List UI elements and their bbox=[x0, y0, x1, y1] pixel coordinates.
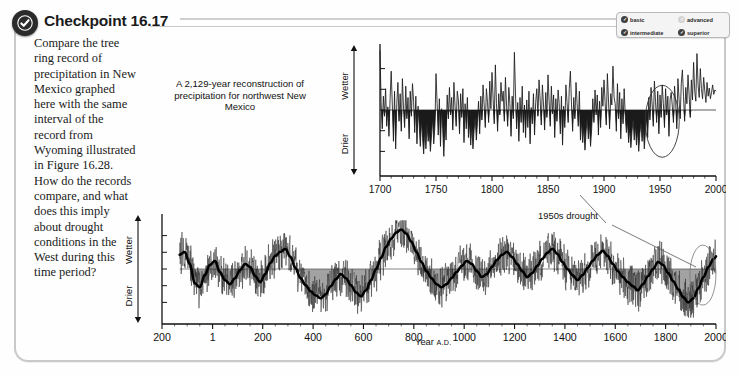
legend-item-superior[interactable]: ✓ superior bbox=[674, 29, 731, 36]
check-dot-icon: ✓ bbox=[678, 16, 685, 23]
svg-text:1600: 1600 bbox=[603, 331, 627, 343]
figure-caption: A 2,129-year reconstruction of precipita… bbox=[172, 78, 308, 113]
svg-text:1700: 1700 bbox=[369, 184, 392, 195]
svg-text:200: 200 bbox=[153, 331, 171, 343]
svg-text:1800: 1800 bbox=[481, 184, 504, 195]
svg-text:1400: 1400 bbox=[553, 331, 577, 343]
svg-text:2000: 2000 bbox=[704, 331, 726, 343]
svg-text:1: 1 bbox=[210, 331, 216, 343]
svg-text:2000: 2000 bbox=[705, 184, 726, 195]
check-dot-icon: ✓ bbox=[621, 16, 628, 23]
svg-text:1850: 1850 bbox=[537, 184, 560, 195]
svg-text:200: 200 bbox=[254, 331, 272, 343]
svg-text:Drier: Drier bbox=[339, 134, 350, 154]
svg-text:400: 400 bbox=[304, 331, 322, 343]
svg-text:1750: 1750 bbox=[425, 184, 448, 195]
svg-text:1200: 1200 bbox=[503, 331, 527, 343]
check-circle-icon bbox=[12, 10, 38, 36]
svg-text:Wetter: Wetter bbox=[339, 72, 350, 99]
figure-page: Checkpoint 16.17 Compare the tree ring r… bbox=[0, 0, 738, 376]
legend-label: superior bbox=[687, 30, 709, 36]
check-dot-icon: ✓ bbox=[678, 29, 685, 36]
legend-item-advanced[interactable]: ✓ advanced bbox=[674, 16, 731, 23]
svg-text:1950: 1950 bbox=[649, 184, 672, 195]
check-dot-icon: ✓ bbox=[621, 29, 628, 36]
legend-item-intermediate[interactable]: ✓ intermediate bbox=[617, 29, 674, 36]
xaxis-label-bottom: Year A.D. bbox=[415, 336, 451, 347]
legend-label: advanced bbox=[687, 17, 713, 23]
legend-item-basic[interactable]: ✓ basic bbox=[617, 16, 674, 23]
annotation-1950s-drought: 1950s drought bbox=[535, 210, 601, 221]
legend-label: basic bbox=[630, 17, 644, 23]
header-rule bbox=[150, 26, 690, 27]
legend-label: intermediate bbox=[630, 30, 663, 36]
svg-text:1800: 1800 bbox=[654, 331, 678, 343]
level-legend: ✓ basic ✓ advanced ✓ intermediate ✓ supe… bbox=[616, 12, 730, 38]
chart-top-detail: 1700175018001850190019502000WetterDrier bbox=[318, 36, 726, 206]
svg-text:Drier: Drier bbox=[123, 285, 134, 307]
svg-text:1900: 1900 bbox=[593, 184, 616, 195]
svg-text:600: 600 bbox=[355, 331, 373, 343]
svg-text:1000: 1000 bbox=[452, 331, 476, 343]
svg-text:Wetter: Wetter bbox=[123, 235, 134, 264]
page-title: Checkpoint 16.17 bbox=[44, 12, 168, 30]
